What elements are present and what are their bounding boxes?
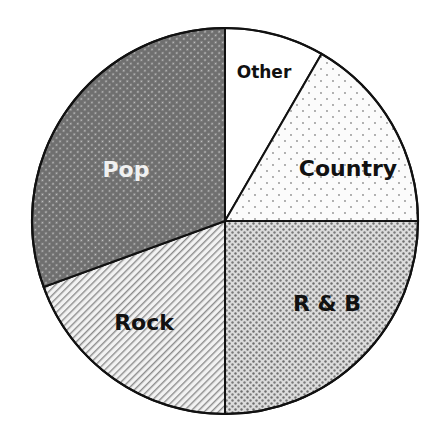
slice-rnb[interactable]: [225, 221, 418, 414]
label-country: Country: [299, 156, 397, 181]
pie-chart: Other Country R & B Rock Pop: [0, 0, 443, 440]
label-rnb: R & B: [293, 291, 361, 316]
label-pop: Pop: [103, 157, 150, 182]
pie-slices: [32, 28, 418, 414]
label-other: Other: [237, 62, 292, 82]
label-rock: Rock: [114, 310, 175, 335]
